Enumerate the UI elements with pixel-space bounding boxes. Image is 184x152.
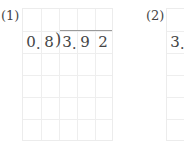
grid-row-line	[167, 119, 184, 120]
dividend-digit: 9	[76, 33, 94, 51]
grid-row-line	[167, 53, 184, 54]
problem-1-grid	[22, 8, 113, 141]
problem-2-grid	[166, 8, 184, 141]
grid-row-line	[23, 97, 112, 98]
dividend-digit: 2	[94, 33, 112, 51]
grid-row-line	[23, 119, 112, 120]
grid-row-line	[23, 31, 112, 32]
grid-row-line	[167, 75, 184, 76]
division-bracket-bar	[60, 30, 112, 31]
decimal-point: .	[180, 36, 184, 52]
grid-row-line	[167, 97, 184, 98]
grid-row-line	[23, 53, 112, 54]
grid-row-line	[23, 75, 112, 76]
grid-row-line	[167, 31, 184, 32]
problem-2-label: (2)	[146, 8, 164, 23]
problem-1-label: (1)	[1, 8, 19, 23]
